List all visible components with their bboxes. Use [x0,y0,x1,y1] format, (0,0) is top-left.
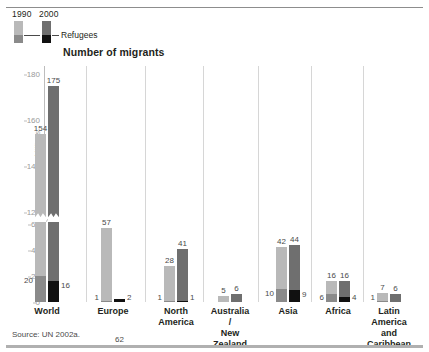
legend-label-1990: 1990 [12,9,32,19]
legend-swatch-2000-main [42,21,51,35]
source-note: Source: UN 2002a. [12,330,80,339]
legend-swatch-1990 [14,21,23,43]
bar-segment-refugees [35,276,46,302]
bar-value-label: 28 [165,256,174,265]
refugee-value-label: 20 [24,276,33,285]
bar-value-label: 44 [290,235,299,244]
bar-value-label: 7 [380,283,384,292]
bar-segment-total [48,86,59,303]
bar-value-label: 62 [115,335,124,344]
panel-separator [86,66,87,302]
bar-value-label: 42 [277,237,286,246]
bar-value-label: 6 [234,284,238,293]
category-label: Asia [278,306,297,317]
bar-segment-total [390,294,401,302]
refugee-value-label: 1 [158,293,162,302]
chart-figure: 1990 2000 Refugees Number of migrants Mi… [0,0,429,352]
bar-group: 716Latin America and Caribbean [375,66,403,302]
bar-axis-break-icon [48,213,59,222]
bar-segment-total [101,228,112,302]
category-label: Australia / New Zealand [211,306,250,350]
bar-value-label: 16 [340,271,349,280]
bar-segment-refugees [114,299,125,302]
bar-segment-refugees [101,301,112,302]
refugee-value-label: 1 [95,293,99,302]
bar-value-label: 57 [102,218,111,227]
bar-value-label: 154 [34,124,47,133]
bar-axis-break-icon [35,213,46,222]
legend-label-refugees: Refugees [61,30,97,40]
refugee-value-label: 16 [61,281,70,290]
panel-separator [145,66,146,302]
legend-swatch-2000-refugees [42,35,51,43]
category-label: Latin America and Caribbean [367,306,411,350]
bar-value-label: 41 [178,239,187,248]
bar-value-label: 6 [393,284,397,293]
legend-leader-line-right [52,35,59,36]
bottom-divider [6,345,423,348]
legend-swatch-1990-refugees [14,35,23,43]
refugee-value-label: 1 [371,293,375,302]
bar-segment-total [177,249,188,302]
bar-segment-refugees [276,289,287,302]
panel-separator [311,66,312,302]
plot-area: Millions 0204060120140160180 1542017516W… [44,66,421,302]
bar-segment-refugees [164,301,175,302]
bar-segment-total [218,296,229,303]
bar-segment-refugees [177,301,188,302]
bar-segment-refugees [326,294,337,302]
bar-segment-total [164,266,175,302]
bar-segment-total [231,294,242,302]
legend-leader-line-left [24,35,40,36]
panel-separator [258,66,259,302]
category-label: Africa [325,306,351,317]
category-label: North America [158,306,194,328]
bar-group: 571622Europe [99,66,127,302]
refugee-value-label: 1 [190,293,194,302]
refugee-value-label: 4 [352,293,356,302]
legend-swatch-2000 [42,21,51,43]
legend-label-2000: 2000 [39,9,59,19]
panel-separator [203,66,204,302]
bar-value-label: 16 [327,271,336,280]
bar-value-label: 5 [221,286,225,295]
refugee-value-label: 6 [320,293,324,302]
panel-separator [363,66,364,302]
bar-group: 4210449Asia [274,66,302,302]
top-divider [6,7,423,8]
chart-title: Number of migrants [63,46,165,58]
bar-segment-refugees [48,281,59,302]
legend-swatch-1990-main [14,21,23,35]
category-label: Europe [97,306,128,317]
bar-segment-refugees [339,297,350,302]
bar-segment-refugees [289,290,300,302]
bar-group: 56Australia / New Zealand [216,66,244,302]
bar-group: 1542017516World [33,66,61,302]
category-label: World [34,306,59,317]
bar-group: 281411North America [162,66,190,302]
refugee-value-label: 10 [265,289,274,298]
refugee-value-label: 2 [127,293,131,302]
bar-segment-refugees [377,301,388,302]
bar-group: 166164Africa [324,66,352,302]
refugee-value-label: 9 [302,290,306,299]
bar-value-label: 175 [47,76,60,85]
